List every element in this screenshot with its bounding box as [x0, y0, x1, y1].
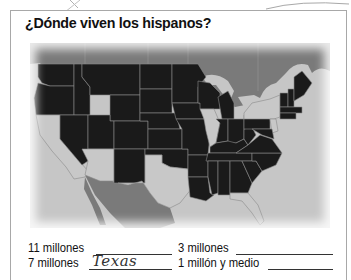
- state-utah: [88, 115, 114, 149]
- answer-blank[interactable]: [268, 255, 333, 270]
- state-oregon: [34, 83, 74, 115]
- answer-blank[interactable]: [236, 240, 333, 255]
- state-montana: [82, 64, 140, 95]
- state-massachusetts: [280, 107, 302, 113]
- state-washington: [38, 64, 74, 86]
- map-svg: [30, 43, 330, 228]
- state-connecticut: [280, 113, 296, 119]
- answer-label: 1 millón y medio: [178, 256, 259, 270]
- worksheet-title: ¿Dónde viven los hispanos?: [25, 14, 211, 32]
- state-south-dakota: [140, 89, 172, 113]
- us-hispanic-population-map: [30, 43, 330, 228]
- answer-row-7-millones: 7 millones Texas: [28, 256, 173, 271]
- state-arkansas: [188, 155, 208, 177]
- answer-row-3-millones: 3 millones: [178, 241, 333, 256]
- state-alabama: [218, 161, 230, 195]
- answer-row-1-millon-y-medio: 1 millón y medio: [178, 256, 333, 271]
- state-colorado: [114, 121, 148, 149]
- state-vermont: [280, 93, 288, 107]
- state-new-hampshire: [288, 89, 294, 107]
- state-wyoming: [110, 95, 140, 121]
- answer-label: 7 millones: [28, 256, 79, 270]
- answer-label: 11 millones: [28, 241, 84, 255]
- state-new-mexico: [114, 149, 145, 183]
- state-north-dakota: [140, 64, 172, 89]
- answer-label: 3 millones: [178, 241, 229, 255]
- state-ohio: [228, 119, 244, 143]
- state-tennessee: [206, 153, 252, 161]
- handwritten-answer: Texas: [92, 252, 137, 270]
- state-kansas: [148, 129, 182, 149]
- state-iowa: [172, 103, 204, 119]
